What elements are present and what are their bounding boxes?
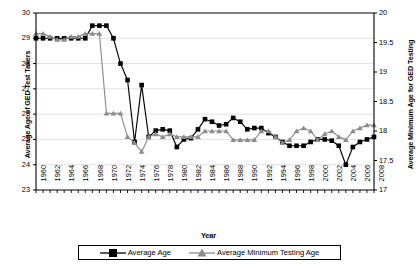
x-axis-tick-1988: 1988 xyxy=(236,165,245,195)
chart-container: Average Age of GED Test Takers Average M… xyxy=(0,0,417,265)
chart-legend: Average Age Average Minimum Testing Age xyxy=(78,245,341,260)
x-axis-tick-1970: 1970 xyxy=(110,165,119,195)
x-axis-tick-1986: 1986 xyxy=(222,165,231,195)
x-axis-tick-2008: 2008 xyxy=(377,165,386,195)
y-axis-left-tick-30: 30 xyxy=(8,8,30,17)
gridlines xyxy=(36,38,374,164)
x-axis-tick-1978: 1978 xyxy=(166,165,175,195)
series-average-minimum-testing-age xyxy=(33,31,377,154)
legend-item-average-minimum-testing-age: Average Minimum Testing Age xyxy=(189,248,319,258)
y-axis-left-tick-29: 29 xyxy=(8,33,30,42)
x-axis-tick-1968: 1968 xyxy=(96,165,105,195)
legend-marker-triangle xyxy=(189,248,215,258)
legend-label-average-minimum-testing-age: Average Minimum Testing Age xyxy=(217,248,319,257)
data-series-layer xyxy=(33,23,377,167)
x-axis-tick-1962: 1962 xyxy=(53,165,62,195)
y-axis-right-tick-19-5: 19.5 xyxy=(379,38,403,47)
x-axis-tick-1972: 1972 xyxy=(124,165,133,195)
x-axis-tick-1966: 1966 xyxy=(81,165,90,195)
y-axis-right-tick-18: 18 xyxy=(379,126,403,135)
legend-marker-square xyxy=(100,248,126,258)
x-axis-tick-1976: 1976 xyxy=(152,165,161,195)
x-axis-tick-1964: 1964 xyxy=(67,165,76,195)
x-axis-tick-1992: 1992 xyxy=(265,165,274,195)
x-axis-tick-1994: 1994 xyxy=(279,165,288,195)
x-axis-tick-2000: 2000 xyxy=(321,165,330,195)
y-axis-left-tick-27: 27 xyxy=(8,84,30,93)
x-axis-tick-2004: 2004 xyxy=(349,165,358,195)
x-axis-tick-1974: 1974 xyxy=(138,165,147,195)
x-axis-tick-1996: 1996 xyxy=(293,165,302,195)
y-axis-right-tick-19: 19 xyxy=(379,67,403,76)
legend-item-average-age: Average Age xyxy=(100,248,171,258)
x-axis-tick-2002: 2002 xyxy=(335,165,344,195)
x-axis-tick-1982: 1982 xyxy=(194,165,203,195)
plot-area xyxy=(0,0,417,265)
x-axis-tick-1998: 1998 xyxy=(307,165,316,195)
y-axis-right-tick-18-5: 18.5 xyxy=(379,97,403,106)
x-axis-tick-2006: 2006 xyxy=(363,165,372,195)
x-axis-tick-1980: 1980 xyxy=(180,165,189,195)
y-axis-right-tick-20: 20 xyxy=(379,8,403,17)
y-axis-left-tick-28: 28 xyxy=(8,59,30,68)
series-average-age xyxy=(34,23,377,167)
y-axis-right-tick-17-5: 17.5 xyxy=(379,156,403,165)
x-axis-tick-1990: 1990 xyxy=(250,165,259,195)
x-axis-tick-1984: 1984 xyxy=(208,165,217,195)
y-axis-left-tick-23: 23 xyxy=(8,185,30,194)
y-axis-left-tick-24: 24 xyxy=(8,160,30,169)
x-axis-tick-1960: 1960 xyxy=(39,165,48,195)
legend-label-average-age: Average Age xyxy=(128,248,171,257)
y-axis-left-tick-25: 25 xyxy=(8,134,30,143)
y-axis-left-tick-26: 26 xyxy=(8,109,30,118)
